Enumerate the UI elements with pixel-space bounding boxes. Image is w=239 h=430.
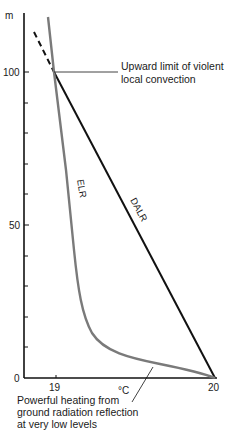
- x-tick-label-19: 19: [49, 382, 61, 393]
- heating-note-line2: ground radiation reflection: [17, 406, 139, 418]
- elr-label: ELR: [75, 178, 89, 198]
- x-axis-unit-label: °C: [118, 385, 129, 396]
- heating-leader-line: [132, 367, 153, 402]
- heating-note-line3: at very low levels: [17, 418, 97, 430]
- x-tick-label-20: 20: [208, 382, 220, 393]
- y-tick-label-100: 100: [3, 67, 20, 78]
- y-tick-label-0: 0: [14, 373, 20, 384]
- dalr-line: [54, 72, 215, 378]
- heating-note-line1: Powerful heating from: [17, 394, 119, 406]
- convection-note-line1: Upward limit of violent: [121, 60, 224, 72]
- y-axis-unit-label: m: [5, 10, 13, 21]
- convection-note-line2: local convection: [121, 73, 196, 85]
- y-tick-label-50: 50: [9, 220, 21, 231]
- lapse-rate-diagram: m 100 50 0 19 °C 20 ELR DALR Upward limi…: [0, 0, 239, 430]
